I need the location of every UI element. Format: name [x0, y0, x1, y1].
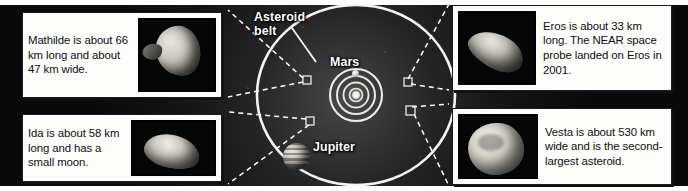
eros-rock-shape	[462, 22, 529, 80]
callout-vesta-text: Vesta is about 530 km wide and is the se…	[545, 114, 666, 179]
ida-rock-shape	[141, 128, 204, 175]
callout-ida: Ida is about 58 km long and has a small …	[22, 114, 222, 182]
vesta-rock-shape	[468, 123, 524, 175]
leader-ida-top	[228, 112, 306, 119]
leader-vesta-bottom	[414, 114, 449, 186]
callout-vesta: Vesta is about 530 km wide and is the se…	[452, 108, 672, 185]
callout-mathilde-text: Mathilde is about 66 km long and about 4…	[28, 18, 131, 92]
belt-marker-mathilde	[303, 76, 311, 84]
ida-asteroid-photo	[131, 120, 216, 176]
callout-ida-text: Ida is about 58 km long and has a small …	[28, 120, 124, 176]
mars-body	[352, 70, 359, 77]
leader-eros-bottom	[411, 84, 449, 90]
mathilde-rock-shape	[153, 23, 204, 79]
leader-mathilde-bottom	[228, 82, 303, 97]
leader-eros-top	[408, 4, 449, 79]
asteroid-belt-label: Asteroid belt	[254, 10, 305, 38]
sun-body	[352, 91, 360, 99]
asteroid-belt-figure: Asteroid belt Mars Jupiter Mathilde is a…	[0, 0, 688, 191]
jupiter-label: Jupiter	[313, 140, 355, 154]
callout-eros: Eros is about 33 km long. The NEAR space…	[452, 5, 672, 91]
asteroid-belt-label-line2: belt	[254, 24, 305, 38]
jupiter-body	[283, 143, 310, 170]
leader-vesta-top	[412, 104, 449, 107]
asteroid-belt-label-line1: Asteroid	[254, 10, 305, 24]
mars-label: Mars	[330, 55, 359, 69]
callout-mathilde: Mathilde is about 66 km long and about 4…	[22, 12, 222, 98]
belt-marker-eros	[404, 78, 412, 86]
eros-asteroid-photo	[458, 11, 536, 85]
belt-marker-ida	[306, 117, 314, 125]
vesta-asteroid-photo	[458, 114, 538, 179]
callout-eros-text: Eros is about 33 km long. The NEAR space…	[543, 11, 666, 85]
mathilde-asteroid-photo	[138, 18, 216, 92]
